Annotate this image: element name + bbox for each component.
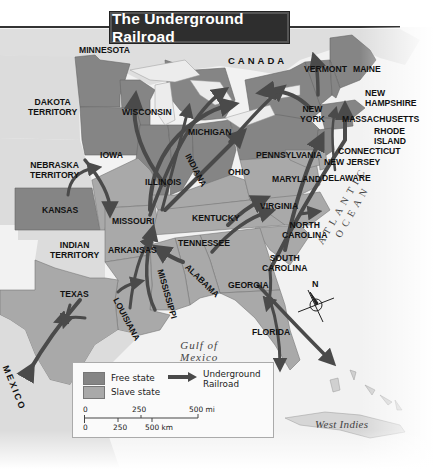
map-legend: Free state Slave state Underground Railr… xyxy=(72,362,274,438)
label-iowa: IOWA xyxy=(100,150,123,160)
label-ri-line1: RHODE xyxy=(374,126,406,136)
label-connecticut: CONNECTICUT xyxy=(338,146,401,156)
label-ny-line2: YORK xyxy=(300,114,325,124)
label-minnesota: MINNESOTA xyxy=(79,45,130,55)
label-kentucky: KENTUCKY xyxy=(192,213,240,223)
map-title-text: The Underground Railroad xyxy=(112,10,287,46)
label-delaware: DELAWARE xyxy=(322,173,371,183)
scale-km-250: 250 xyxy=(113,423,127,432)
scale-mi-250: 250 xyxy=(132,405,146,414)
label-new-jersey: NEW JERSEY xyxy=(324,157,380,167)
label-north-carolina: NORTHCAROLINA xyxy=(282,220,327,240)
label-south-carolina: SOUTHCAROLINA xyxy=(262,253,307,273)
legend-underground-railroad: Underground Railroad xyxy=(203,369,261,389)
label-dakota-territory: DAKOTATERRITORY xyxy=(28,97,77,117)
label-dakota-line2: TERRITORY xyxy=(28,107,77,117)
label-massachusetts: MASSACHUSETTS xyxy=(342,114,419,124)
label-wisconsin: WISCONSIN xyxy=(122,107,172,117)
scale-bar xyxy=(84,414,204,424)
scale-mi-500: 500 mi xyxy=(189,405,215,414)
label-nh-line1: NEW xyxy=(365,88,417,98)
label-nebraska-line2: TERRITORY xyxy=(30,170,79,180)
compass-north: N xyxy=(312,279,319,289)
label-indian-territory: INDIANTERRITORY xyxy=(50,240,99,260)
label-indian-line2: TERRITORY xyxy=(50,250,99,260)
label-nc-line1: NORTH xyxy=(282,220,327,230)
label-gulf-of-mexico: Gulf of Mexico xyxy=(180,339,218,363)
label-pennsylvania: PENNSYLVANIA xyxy=(256,150,322,160)
label-sc-line1: SOUTH xyxy=(262,253,307,263)
legend-slave-state: Slave state xyxy=(111,387,160,397)
label-maryland: MARYLAND xyxy=(272,174,321,184)
label-nh-line2: HAMPSHIRE xyxy=(365,98,417,108)
label-illinois: ILLINOIS xyxy=(145,177,181,187)
label-canada: CANADA xyxy=(228,56,287,66)
label-kansas: KANSAS xyxy=(42,205,78,215)
label-maine: MAINE xyxy=(353,64,381,74)
label-ny-line1: NEW xyxy=(300,104,325,114)
legend-free-state: Free state xyxy=(111,373,155,383)
label-texas: TEXAS xyxy=(60,289,89,299)
label-georgia: GEORGIA xyxy=(228,280,269,290)
label-nebraska-line1: NEBRASKA xyxy=(30,160,79,170)
label-nebraska-territory: NEBRASKATERRITORY xyxy=(30,160,79,180)
legend-route-line1: Underground xyxy=(203,369,261,379)
slave-state-swatch xyxy=(83,386,105,399)
scale-km-0: 0 xyxy=(83,423,88,432)
label-rhode-island: RHODEISLAND xyxy=(374,126,406,146)
label-new-hampshire: NEWHAMPSHIRE xyxy=(365,88,417,108)
label-nc-line2: CAROLINA xyxy=(282,230,327,240)
scale-km-500: 500 km xyxy=(145,423,173,432)
label-michigan: MICHIGAN xyxy=(188,127,231,137)
label-dakota-line1: DAKOTA xyxy=(28,97,77,107)
label-virginia: VIRGINIA xyxy=(260,201,298,211)
label-indian-line1: INDIAN xyxy=(50,240,99,250)
label-arkansas: ARKANSAS xyxy=(108,245,157,255)
free-state-swatch xyxy=(83,372,105,385)
scale-mi-0: 0 xyxy=(83,405,88,414)
label-vermont: VERMONT xyxy=(304,64,347,74)
railroad-arrow-icon xyxy=(168,372,198,382)
label-gulf-line1: Gulf of xyxy=(180,339,218,351)
label-florida: FLORIDA xyxy=(252,327,290,337)
map-title: The Underground Railroad xyxy=(110,12,289,43)
legend-route-line2: Railroad xyxy=(203,379,261,389)
label-tennessee: TENNESSEE xyxy=(178,238,230,248)
label-ri-line2: ISLAND xyxy=(374,136,406,146)
label-west-indies: West Indies xyxy=(315,418,368,430)
label-ohio: OHIO xyxy=(228,167,250,177)
label-sc-line2: CAROLINA xyxy=(262,263,307,273)
label-missouri: MISSOURI xyxy=(112,216,155,226)
label-new-york: NEWYORK xyxy=(300,104,325,124)
